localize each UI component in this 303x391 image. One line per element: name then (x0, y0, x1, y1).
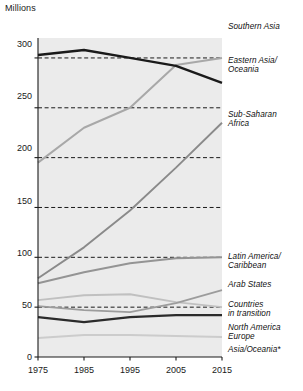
x-tick-1975: 1975 (18, 366, 58, 375)
y-tick-0: 0 (4, 353, 32, 362)
series-label-eastern-asia-oceania: Eastern Asia/ Oceania (228, 56, 277, 75)
x-tick-1995: 1995 (110, 366, 150, 375)
y-tick-200: 200 (4, 144, 32, 153)
x-tick-1985: 1985 (64, 366, 104, 375)
series-label-arab-states: Arab States (228, 280, 271, 289)
series-label-countries-in-transition: Countries in transition (228, 300, 271, 319)
x-tick-2015: 2015 (202, 366, 242, 375)
y-tick-300: 300 (4, 40, 32, 49)
y-tick-150: 150 (4, 197, 32, 206)
series-label-asia-oceania: Asia/Oceania* (228, 345, 281, 354)
x-tick-2005: 2005 (156, 366, 196, 375)
line-chart: Millions 300 250 200 150 100 50 0 1975 1… (0, 0, 303, 391)
series-label-sub-saharan-africa: Sub-Saharan Africa (228, 110, 277, 129)
y-tick-100: 100 (4, 249, 32, 258)
series-label-southern-asia: Southern Asia (228, 22, 280, 31)
y-tick-250: 250 (4, 92, 32, 101)
y-tick-50: 50 (4, 301, 32, 310)
series-label-north-america-europe: North America Europe (228, 323, 281, 342)
series-label-latin-america-caribbean: Latin America/ Caribbean (228, 252, 281, 271)
